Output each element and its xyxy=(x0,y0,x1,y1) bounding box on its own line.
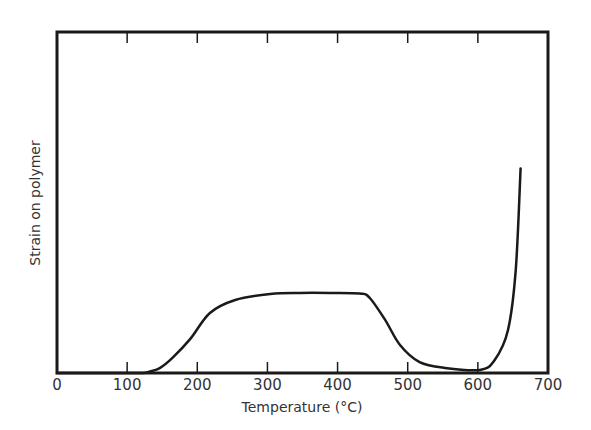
x-tick-label: 300 xyxy=(253,376,282,394)
x-tick-label: 0 xyxy=(52,376,62,394)
x-axis-label: Temperature (°C) xyxy=(241,399,363,415)
x-tick-label: 100 xyxy=(113,376,142,394)
y-axis-label: Strain on polymer xyxy=(27,140,43,266)
strain-curve xyxy=(57,168,521,373)
x-axis-ticks xyxy=(127,32,478,373)
x-tick-label: 700 xyxy=(534,376,563,394)
chart: 0100200300400500600700 Temperature (°C) … xyxy=(0,0,591,430)
x-tick-label: 500 xyxy=(393,376,422,394)
plot-frame xyxy=(57,32,548,373)
x-tick-label: 600 xyxy=(464,376,493,394)
x-tick-label: 400 xyxy=(323,376,352,394)
x-axis-tick-labels: 0100200300400500600700 xyxy=(52,376,562,394)
x-tick-label: 200 xyxy=(183,376,212,394)
